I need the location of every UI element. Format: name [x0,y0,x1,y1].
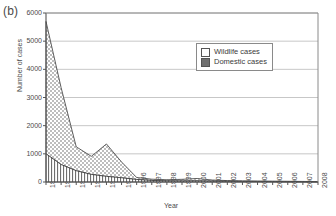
chart-figure: (b) Number of cases Year 010002000300040… [0,0,336,216]
wildlife-swatch-icon [201,48,210,57]
legend-item-wildlife: Wildlife cases [201,47,267,57]
chart-legend: Wildlife cases Domestic cases [196,43,273,71]
domestic-swatch-icon [201,58,210,67]
legend-item-domestic: Domestic cases [201,57,267,67]
legend-label-domestic: Domestic cases [214,58,267,66]
legend-label-wildlife: Wildlife cases [214,48,260,56]
series-area-wildlife [46,21,318,181]
plot-area [0,0,336,216]
gridlines [46,13,318,154]
